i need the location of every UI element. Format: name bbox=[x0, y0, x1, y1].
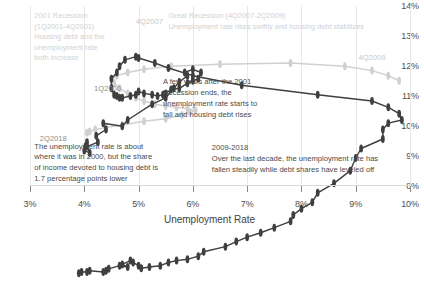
x-axis-tick-label: 4% bbox=[64, 199, 104, 209]
x-axis-tick-label: 3% bbox=[10, 199, 50, 209]
data-point bbox=[245, 233, 249, 241]
data-point bbox=[175, 257, 179, 265]
x-axis-tick-mark bbox=[356, 186, 357, 192]
x-axis-tick-mark bbox=[139, 186, 140, 192]
data-point bbox=[381, 125, 385, 133]
data-point bbox=[397, 110, 401, 118]
annotation-recession-2001: 2001 Recession (1Q2001-4Q2001) Housing d… bbox=[34, 11, 104, 64]
x-axis-tick-label: 8% bbox=[281, 199, 321, 209]
x-axis-tick-label: 7% bbox=[227, 199, 267, 209]
x-axis-tick-mark bbox=[84, 186, 85, 192]
x-axis-tick-label: 10% bbox=[390, 199, 424, 209]
data-point bbox=[85, 268, 89, 276]
x-axis-tick-label: 9% bbox=[336, 199, 376, 209]
x-axis-title: Unemployment Rate bbox=[0, 214, 419, 225]
data-point bbox=[386, 103, 390, 111]
x-axis-tick-mark bbox=[30, 186, 31, 192]
data-point bbox=[386, 119, 390, 127]
data-point bbox=[104, 125, 108, 133]
point-label-1q2000: 1Q2000 bbox=[94, 84, 121, 93]
x-axis-tick-mark bbox=[247, 186, 248, 192]
data-point bbox=[199, 68, 203, 76]
data-point bbox=[142, 65, 146, 73]
data-point bbox=[183, 68, 187, 76]
data-point bbox=[110, 75, 114, 83]
data-point bbox=[101, 268, 105, 276]
data-point bbox=[386, 72, 390, 80]
data-point bbox=[186, 255, 190, 263]
data-point bbox=[88, 127, 92, 135]
data-point bbox=[218, 60, 222, 68]
point-label-4q2007: 4Q2007 bbox=[136, 17, 163, 26]
x-axis-tick-mark bbox=[410, 186, 411, 192]
point-label-2q2018: 2Q2018 bbox=[40, 134, 67, 143]
data-point bbox=[289, 59, 293, 67]
data-point bbox=[224, 243, 228, 251]
data-point bbox=[129, 257, 133, 265]
data-point bbox=[148, 263, 152, 271]
data-point bbox=[142, 117, 146, 125]
data-point bbox=[77, 269, 81, 277]
data-point bbox=[118, 262, 122, 270]
annotation-decade-2009-2018: 2009-2018 Over the last decade, the unem… bbox=[212, 143, 378, 175]
data-point bbox=[167, 258, 171, 266]
annotation-great-recession: Great Recession (4Q2007-2Q2009) Unemploy… bbox=[168, 11, 364, 32]
data-point bbox=[343, 62, 347, 70]
data-point bbox=[115, 68, 119, 76]
data-point bbox=[316, 91, 320, 99]
data-point bbox=[156, 92, 160, 100]
data-point bbox=[202, 248, 206, 256]
x-axis-tick-label: 5% bbox=[119, 199, 159, 209]
annotation-debt-share-2018: The unemployment rate is about where it … bbox=[34, 142, 158, 185]
point-label-4q2009: 4Q2009 bbox=[358, 53, 385, 62]
data-point bbox=[158, 262, 162, 270]
x-axis-tick-label: 6% bbox=[173, 199, 213, 209]
data-point bbox=[316, 189, 320, 197]
data-point bbox=[120, 122, 124, 130]
data-point bbox=[123, 56, 127, 64]
data-point bbox=[150, 91, 154, 99]
data-point bbox=[167, 64, 171, 72]
gridline bbox=[410, 6, 411, 186]
data-point bbox=[137, 54, 141, 62]
data-point bbox=[332, 179, 336, 187]
x-axis-tick-mark bbox=[193, 186, 194, 192]
data-point bbox=[370, 67, 374, 75]
data-point bbox=[126, 263, 130, 271]
data-point bbox=[381, 135, 385, 143]
data-point bbox=[400, 116, 404, 124]
data-point bbox=[126, 116, 130, 124]
data-point bbox=[142, 89, 146, 97]
data-point bbox=[129, 92, 133, 100]
x-axis-tick-mark bbox=[301, 186, 302, 192]
x-axis-line bbox=[30, 185, 410, 186]
data-point bbox=[153, 59, 157, 67]
data-point bbox=[234, 238, 238, 246]
data-point bbox=[101, 119, 105, 127]
data-point bbox=[134, 91, 138, 99]
annotation-post-2001-recovery: A few years after the 2001 Recession end… bbox=[163, 77, 257, 120]
data-point bbox=[142, 97, 146, 105]
data-point bbox=[126, 68, 130, 76]
data-point bbox=[137, 262, 141, 270]
data-point bbox=[94, 132, 98, 140]
data-point bbox=[118, 62, 122, 70]
data-point bbox=[150, 100, 154, 108]
data-point bbox=[196, 252, 200, 260]
data-point bbox=[370, 97, 374, 105]
data-point bbox=[397, 77, 401, 85]
data-point bbox=[259, 229, 263, 237]
